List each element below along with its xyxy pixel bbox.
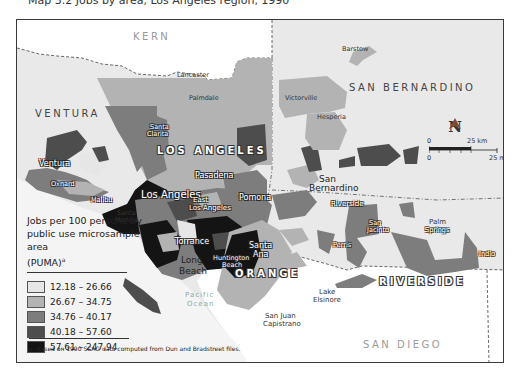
city-label-santa-clarita-2: Clarita: [147, 131, 168, 138]
map-frame: KERN VENTURA LOS ANGELES SAN BERNARDINO …: [16, 19, 504, 363]
city-label-san-jacinto-2: Jacinto: [367, 227, 389, 234]
footnote-divider: [29, 338, 129, 339]
county-label-los-angeles: LOS ANGELES: [157, 146, 267, 156]
ocean-label-2: Ocean: [187, 301, 214, 308]
footnote: a. Based on 1990 SCAG data computed from…: [29, 345, 240, 352]
city-label-barstow: Barstow: [342, 46, 368, 53]
city-label-east-la-1: East: [193, 197, 208, 204]
city-label-lake-elsinore-2: Elsinore: [313, 297, 341, 304]
north-arrow-icon: [445, 118, 465, 130]
county-label-san-bernardino: SAN BERNARDINO: [349, 83, 475, 93]
city-label-perris: Perris: [333, 242, 351, 249]
city-label-hesperia: Hesperia: [317, 114, 346, 121]
city-label-los-angeles: Los Angeles: [141, 190, 201, 200]
legend-item: 34.76 – 40.17: [27, 309, 157, 324]
city-label-san-juan-1: San Juan: [265, 313, 296, 320]
city-label-riverside: Riverside: [331, 201, 363, 208]
city-label-huntington-2: Beach: [222, 262, 242, 269]
county-label-kern: KERN: [133, 32, 170, 42]
legend-item: 40.18 – 57.60: [27, 324, 157, 339]
county-label-orange: ORANGE: [235, 269, 300, 279]
legend-item: 12.18 – 26.66: [27, 279, 157, 294]
county-label-riverside: RIVERSIDE: [379, 277, 466, 287]
city-label-ventura: Ventura: [39, 160, 70, 168]
legend-range-4: 40.18 – 57.60: [50, 327, 112, 337]
legend-swatch-1: [27, 281, 45, 293]
legend-swatch-2: [27, 296, 45, 308]
scale-km-label: 25 km: [467, 137, 487, 145]
scale-km-zero: 0: [427, 137, 431, 145]
legend-range-1: 12.18 – 26.66: [50, 282, 112, 292]
city-label-torrance: Torrance: [175, 238, 209, 246]
legend-title-line3: (PUMA): [27, 257, 62, 268]
legend-divider: [27, 272, 127, 273]
ocean-label-1: Pacific: [185, 292, 214, 299]
north-arrow: N: [445, 118, 465, 136]
county-label-ventura: VENTURA: [35, 109, 100, 119]
city-label-santa-ana-1: Santa: [249, 242, 272, 250]
legend-swatch-4: [27, 326, 45, 338]
legend-title-line2: public use microsample area: [27, 227, 157, 253]
city-label-lake-elsinore-1: Lake: [319, 289, 335, 296]
scale-mi-zero: 0: [427, 154, 431, 162]
county-label-san-diego: SAN DIEGO: [363, 340, 442, 350]
city-label-palmdale: Palmdale: [189, 95, 219, 102]
legend-item: 26.67 – 34.75: [27, 294, 157, 309]
legend-title-line1: Jobs per 100 persons by: [27, 214, 157, 227]
city-label-victorville: Victorville: [285, 95, 317, 102]
city-label-long-beach-1: Long: [181, 256, 203, 265]
city-label-lancaster: Lancaster: [177, 72, 209, 79]
city-label-pomona: Pomona: [239, 194, 271, 202]
city-label-east-la-2: Los Angeles: [189, 205, 231, 212]
legend: Jobs per 100 persons by public use micro…: [27, 214, 157, 354]
map-caption: Map 3.2 Jobs by area, Los Angeles region…: [28, 0, 289, 7]
city-label-san-juan-2: Capistrano: [263, 321, 301, 328]
legend-swatch-3: [27, 311, 45, 323]
city-label-long-beach-2: Beach: [179, 267, 207, 276]
legend-title-sup: a: [62, 256, 66, 263]
scale-bar-graphic: [429, 146, 504, 154]
city-label-palm-springs-2: Springs: [425, 227, 449, 234]
scale-mi-label: 25 mi: [489, 154, 504, 162]
city-label-oxnard: Oxnard: [51, 181, 75, 188]
city-label-malibu: Malibu: [91, 197, 112, 204]
city-label-palm-springs-1: Palm: [429, 219, 446, 226]
city-label-pasadena: Pasadena: [195, 172, 233, 180]
city-label-san-bernardino-2: Bernardino: [309, 184, 358, 193]
city-label-santa-ana-2: Ana: [253, 251, 268, 259]
legend-range-3: 34.76 – 40.17: [50, 312, 112, 322]
city-label-indio: Indio: [479, 251, 495, 258]
legend-range-2: 26.67 – 34.75: [50, 297, 112, 307]
